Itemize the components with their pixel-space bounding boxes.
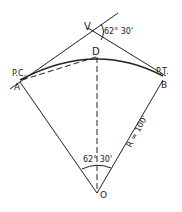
curve-diagram: V 62° 30' D P.C. A P.T. B O 62° 30' R = … <box>0 0 182 212</box>
label-point-b: B <box>161 80 167 90</box>
label-pc: P.C. <box>12 69 26 78</box>
label-vertex: V <box>84 21 91 32</box>
label-pt: P.T. <box>156 67 169 76</box>
label-midpoint: D <box>92 46 100 57</box>
curve-arc <box>20 59 163 80</box>
label-radius: R = 100' <box>125 114 149 149</box>
label-center: O <box>100 190 107 200</box>
radius-ao <box>20 82 97 193</box>
label-deflection-angle: 62° 30' <box>104 27 133 36</box>
label-point-a: A <box>14 82 21 92</box>
label-central-angle: 62° 30' <box>83 155 112 164</box>
diagram-canvas: V 62° 30' D P.C. A P.T. B O 62° 30' R = … <box>0 0 182 212</box>
chord-ad <box>22 57 96 80</box>
